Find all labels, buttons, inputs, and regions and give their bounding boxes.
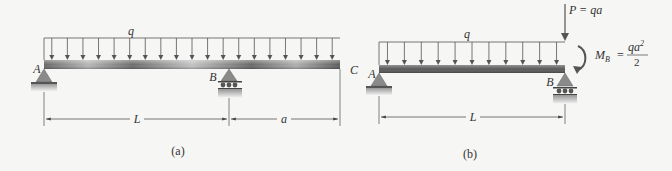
distributed-load-b: q (379, 27, 565, 65)
figure-canvas: q A B C (0, 0, 672, 171)
moment-arrow-icon (573, 46, 585, 74)
roller-support-b-b (553, 73, 577, 104)
caption-a: (a) (171, 144, 184, 158)
svg-text:MB: MB (594, 48, 610, 64)
dimension-lines-a (44, 69, 340, 126)
dimension-label-a: a (281, 112, 287, 126)
svg-text:qa2: qa2 (628, 39, 644, 54)
support-label-a: A (32, 62, 41, 76)
load-arrows-a (49, 38, 334, 60)
figure-b: q P = qa MB = qa2 2 (366, 3, 648, 161)
dimension-label-l-a: L (133, 112, 141, 126)
dimension-label-l-b: L (469, 110, 477, 124)
caption-b: (b) (463, 147, 477, 161)
roller-support-b (218, 69, 242, 98)
support-label-b-b: B (546, 75, 554, 89)
support-label-a-b: A (367, 67, 376, 81)
load-arrows-b (385, 42, 559, 65)
point-load-label: P = qa (568, 3, 602, 17)
point-load-p (561, 4, 569, 41)
end-label-c: C (350, 63, 359, 77)
figure-a: q A B C (31, 24, 359, 158)
svg-text:=: = (617, 48, 624, 62)
moment-label: MB = qa2 2 (594, 39, 648, 68)
distributed-load-a: q (44, 24, 340, 60)
svg-text:2: 2 (634, 56, 640, 68)
support-label-b: B (209, 70, 217, 84)
load-label-q-a: q (128, 24, 134, 38)
load-label-q-b: q (464, 27, 470, 41)
